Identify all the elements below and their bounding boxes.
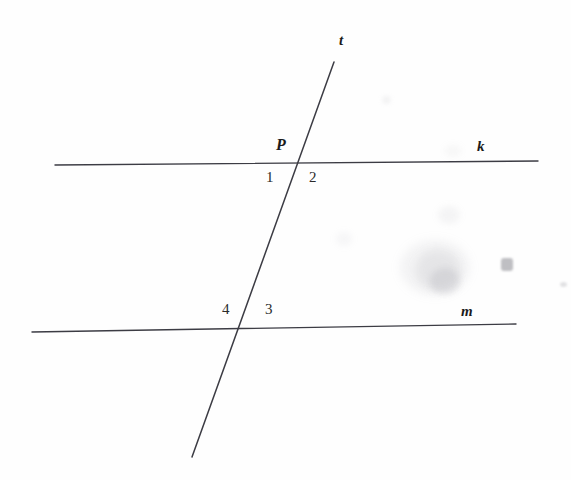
line-m bbox=[32, 324, 516, 332]
line-label-m: m bbox=[461, 304, 473, 319]
line-label-k: k bbox=[477, 139, 485, 154]
angle-label-3: 3 bbox=[265, 302, 273, 317]
angle-label-1: 1 bbox=[266, 170, 274, 185]
angle-label-2: 2 bbox=[309, 170, 317, 185]
line-label-t: t bbox=[339, 33, 343, 48]
geometry-lines-svg bbox=[0, 0, 571, 480]
line-t-transversal bbox=[192, 62, 334, 457]
geometry-figure-canvas: t k m P 1 2 3 4 bbox=[0, 0, 571, 480]
point-label-p: P bbox=[276, 137, 286, 153]
angle-label-4: 4 bbox=[222, 302, 230, 317]
